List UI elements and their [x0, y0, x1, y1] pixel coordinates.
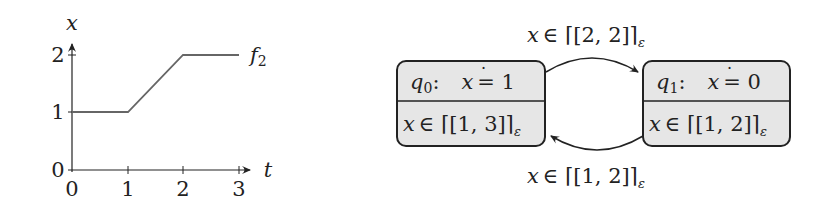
x-tick-label: 0	[65, 177, 78, 201]
x-tick-label: 2	[176, 177, 189, 201]
hybrid-automaton: q0:x= 1 · x∈ ⌈[1, 3]⌉ε q1:x= 0 · x∈ ⌈[1,…	[397, 23, 790, 191]
y-tick-label: 1	[51, 100, 64, 124]
line-chart: 0 1 2 3 0 1 2 x t f2	[51, 11, 272, 201]
transition-q0-to-q1	[546, 58, 638, 72]
y-tick-label: 0	[51, 158, 64, 182]
y-axis-label: x	[66, 11, 78, 35]
state-q0: q0:x= 1 · x∈ ⌈[1, 3]⌉ε	[397, 59, 545, 146]
series-f2-line	[72, 55, 239, 112]
transition-q1-to-q0	[551, 136, 643, 150]
guard-q0-to-q1: x∈ ⌈[2, 2]⌉ε	[527, 23, 645, 50]
figure: 0 1 2 3 0 1 2 x t f2 q0:x= 1 · x∈ ⌈[1, 3…	[0, 0, 826, 213]
dot-accent: ·	[481, 59, 486, 78]
x-tick-label: 1	[121, 177, 134, 201]
state-q1-invariant: x∈ ⌈[1, 2]⌉ε	[649, 112, 767, 139]
guard-q1-to-q0: x∈ ⌈[1, 2]⌉ε	[527, 164, 645, 191]
x-axis-label: t	[264, 158, 273, 182]
x-tick-label: 3	[232, 177, 245, 201]
dot-accent: ·	[727, 59, 732, 78]
series-label: f2	[248, 43, 267, 69]
y-tick-label: 2	[51, 43, 64, 67]
state-q0-invariant: x∈ ⌈[1, 3]⌉ε	[403, 112, 521, 139]
state-q1: q1:x= 0 · x∈ ⌈[1, 2]⌉ε	[643, 59, 790, 146]
